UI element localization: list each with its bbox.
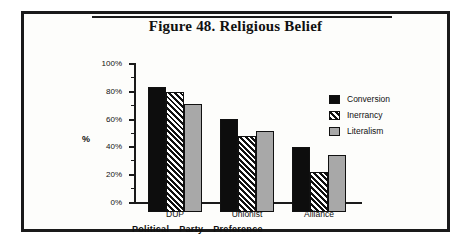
x-axis-title-word: Preference xyxy=(213,224,263,234)
x-axis-title: PoliticalPartyPreference xyxy=(132,224,263,234)
y-tick-minor xyxy=(131,105,135,106)
y-tick-20: 20% xyxy=(129,174,135,176)
chart-legend: ConversionInerrancyLiteralism xyxy=(329,93,390,141)
y-tick-label: 20% xyxy=(106,170,122,179)
x-axis-title-word: Party xyxy=(179,224,203,234)
y-tick-minor xyxy=(131,77,135,78)
y-tick-label: 40% xyxy=(106,142,122,151)
bar-alliance-inerrancy xyxy=(310,172,328,212)
legend-label-inerrancy: Inerrancy xyxy=(347,110,382,120)
y-tick-minor xyxy=(131,160,135,161)
bar-group-unionist xyxy=(220,73,274,212)
x-tick-label-dup: DUP xyxy=(140,209,210,219)
legend-swatch-conversion xyxy=(329,95,340,104)
x-tick-label-alliance: Alliance xyxy=(284,209,354,219)
figure-frame: Figure 48. Religious Belief % 0%20%40%60… xyxy=(21,11,450,232)
bar-unionist-conversion xyxy=(220,119,238,212)
y-tick-80: 80% xyxy=(129,91,135,93)
legend-label-conversion: Conversion xyxy=(347,94,390,104)
y-axis-title: % xyxy=(82,134,90,144)
y-tick-minor xyxy=(131,133,135,134)
y-tick-label: 100% xyxy=(102,59,122,68)
bar-alliance-conversion xyxy=(292,147,310,212)
bar-group-dup xyxy=(148,73,202,212)
y-tick-0: 0% xyxy=(129,202,135,204)
legend-swatch-literalism xyxy=(329,127,340,136)
y-tick-40: 40% xyxy=(129,146,135,148)
y-tick-60: 60% xyxy=(129,119,135,121)
legend-item-literalism: Literalism xyxy=(329,125,390,137)
y-tick-label: 60% xyxy=(106,114,122,123)
y-tick-label: 0% xyxy=(110,198,122,207)
bar-dup-literalism xyxy=(184,104,202,212)
y-tick-minor xyxy=(131,188,135,189)
legend-item-conversion: Conversion xyxy=(329,93,390,105)
y-tick-label: 80% xyxy=(106,86,122,95)
legend-item-inerrancy: Inerrancy xyxy=(329,109,390,121)
bar-alliance-literalism xyxy=(328,155,346,212)
bar-dup-conversion xyxy=(148,87,166,212)
legend-swatch-inerrancy xyxy=(329,111,340,120)
x-tick-label-unionist: Unionist xyxy=(212,209,282,219)
bar-dup-inerrancy xyxy=(166,92,184,212)
y-tick-100: 100% xyxy=(129,63,135,65)
bar-unionist-literalism xyxy=(256,131,274,212)
figure-title: Figure 48. Religious Belief xyxy=(24,18,447,35)
legend-label-literalism: Literalism xyxy=(347,126,383,136)
plot-area: 0%20%40%60%80%100% DUPUnionistAlliance xyxy=(134,63,362,213)
bar-unionist-inerrancy xyxy=(238,136,256,212)
x-axis-title-word: Political xyxy=(132,224,169,234)
